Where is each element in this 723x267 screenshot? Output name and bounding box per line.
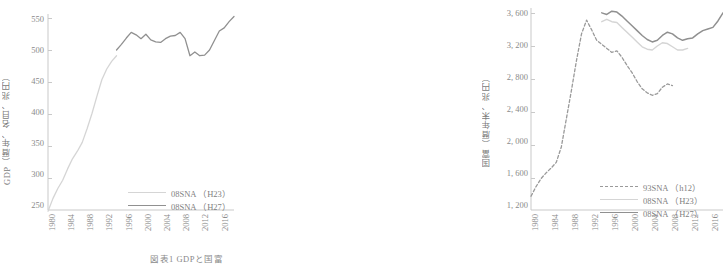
y-tick-label: 1, 200 <box>489 201 528 210</box>
x-tick-label: 1992 <box>105 214 114 231</box>
y-tick-label: 3, 200 <box>489 41 528 50</box>
legend-swatch-line-icon <box>128 205 166 206</box>
x-tick-label: 2016 <box>221 214 230 231</box>
legend-item[interactable]: 93SNA （h12） <box>600 180 703 193</box>
x-tick-label: 1984 <box>67 214 76 231</box>
x-tick-label: 1988 <box>86 214 95 231</box>
y-tick-label: 450 <box>14 77 44 86</box>
legend-label: 08SNA （H27） <box>643 207 703 219</box>
legend-gdp: 08SNA （H23） 08SNA （H27） <box>128 186 231 212</box>
series-line-08sna-h23 <box>602 19 688 50</box>
legend-national-wealth: 93SNA （h12） 08SNA （H23） 08SNA （H27） <box>600 180 703 219</box>
x-tick-label: 1992 <box>591 214 600 231</box>
x-tick-label: 2000 <box>144 214 153 231</box>
y-tick-label: 2, 400 <box>489 105 528 114</box>
y-tick-label: 3, 600 <box>489 9 528 18</box>
legend-label: 08SNA （H27） <box>171 200 231 212</box>
x-tick-label: 2008 <box>182 214 191 231</box>
legend-label: 08SNA （H23） <box>643 194 703 206</box>
series-line-93sna-h12 <box>531 20 672 196</box>
y-tick-label: 2, 000 <box>489 137 528 146</box>
series-line-08sna-h27 <box>602 11 723 42</box>
y-axis-title-gdp: GDP（暦年、名目、兆円） <box>1 58 13 198</box>
x-tick-label: 2016 <box>711 214 720 231</box>
legend-item[interactable]: 08SNA （H27） <box>128 199 231 212</box>
x-tick-label: 2012 <box>201 214 210 231</box>
legend-label: 08SNA （H23） <box>171 187 231 199</box>
legend-label: 93SNA （h12） <box>643 181 701 193</box>
legend-item[interactable]: 08SNA （H27） <box>600 206 703 219</box>
chart-panel-national-wealth: 国富（暦年末、兆円） 3, 600 3, 200 2, 800 2, 400 2… <box>240 0 491 267</box>
y-tick-label: 350 <box>14 139 44 148</box>
legend-item[interactable]: 08SNA （H23） <box>128 186 231 199</box>
chart-panel-gdp: GDP（暦年、名目、兆円） 550 500 450 400 350 300 25… <box>0 0 245 267</box>
y-tick-label: 2, 800 <box>489 73 528 82</box>
figure-caption: 図表1 GDPと国富 <box>150 252 223 264</box>
series-line-08sna-h23 <box>48 56 117 212</box>
y-tick-label: 1, 600 <box>489 169 528 178</box>
gdp-line-svg <box>48 14 234 210</box>
y-tick-label: 300 <box>14 170 44 179</box>
plot-area-gdp <box>48 14 234 210</box>
x-tick-label: 1988 <box>571 214 580 231</box>
series-line-08sna-h27 <box>117 17 234 56</box>
y-tick-label: 250 <box>14 201 44 210</box>
y-tick-label: 500 <box>14 46 44 55</box>
legend-swatch-line-icon <box>600 212 638 213</box>
x-tick-label: 2004 <box>163 214 172 231</box>
legend-swatch-line-icon <box>600 199 638 200</box>
x-tick-label: 1996 <box>125 214 134 231</box>
y-tick-label: 550 <box>14 15 44 24</box>
x-tick-label: 1980 <box>531 214 540 231</box>
legend-item[interactable]: 08SNA （H23） <box>600 193 703 206</box>
x-tick-label: 1984 <box>551 214 560 231</box>
legend-swatch-line-icon <box>128 192 166 193</box>
x-tick-label: 1980 <box>48 214 57 231</box>
legend-swatch-dashed-line-icon <box>600 186 638 187</box>
y-tick-label: 400 <box>14 108 44 117</box>
